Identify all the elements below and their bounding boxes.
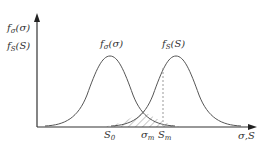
sm-label: Sm	[158, 129, 172, 142]
strength-curve-label: fS(S)	[161, 38, 185, 51]
s0-label: S0	[104, 129, 116, 142]
strength-curve	[111, 56, 241, 126]
stress-curve	[45, 56, 175, 126]
y-label-strength: fS(S)	[6, 40, 30, 53]
x-axis-label: σ,S	[238, 130, 255, 141]
interference-diagram: fσ(σ) fS(S) fσ(σ) fS(S) S0 σm Sm σ,S	[0, 0, 266, 153]
y-label-stress: fσ(σ)	[6, 22, 30, 35]
stress-curve-label: fσ(σ)	[99, 38, 123, 51]
y-axis-arrow-icon	[34, 13, 40, 22]
sigma-m-label: σm	[141, 129, 155, 142]
interference-region	[100, 110, 180, 127]
